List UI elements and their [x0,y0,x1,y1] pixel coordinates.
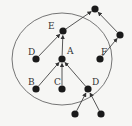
node-E [59,27,66,34]
node-R [116,31,123,38]
node-label-B: B [28,77,35,87]
node-label-F: F [101,47,107,57]
node-label-D1: D [28,47,35,57]
edge-D2-to-A [65,62,86,86]
node-top [91,5,98,12]
labels-group: EDAFBCD [28,21,107,87]
edge-A-to-E [62,36,63,56]
tree-diagram: EDAFBCD [0,0,132,126]
edge-R-to-top [98,12,117,32]
node-A [58,55,65,62]
edge-L2-to-D2 [90,93,99,111]
node-L1 [71,110,78,117]
diagram-svg: EDAFBCD [0,0,132,126]
node-label-E: E [48,21,55,31]
nodes-group [32,5,123,117]
edge-L1-to-D2 [77,93,86,111]
node-L2 [97,110,104,117]
edge-D1-to-E [38,34,59,56]
node-label-A: A [66,46,74,56]
node-label-D2: D [92,77,99,87]
node-label-C: C [54,77,61,87]
node-D2 [84,85,91,92]
edge-E-to-top [66,12,91,29]
